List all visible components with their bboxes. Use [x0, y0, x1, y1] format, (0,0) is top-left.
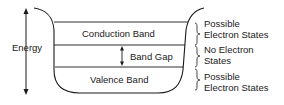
- side-label-line: Possible: [204, 19, 268, 30]
- band-gap-arrow-icon: [120, 46, 124, 66]
- brace-icon-conduction: [195, 23, 200, 45]
- energy-axis-label: Energy: [12, 43, 42, 53]
- side-label-gap: No Electron States: [204, 45, 254, 66]
- side-label-conduction: Possible Electron States: [204, 19, 268, 40]
- side-label-line: Possible: [204, 72, 268, 83]
- band-gap-label: Band Gap: [130, 52, 173, 62]
- brace-icon-gap: [195, 46, 200, 67]
- brace-icon-valence: [195, 69, 200, 90]
- side-label-valence: Possible Electron States: [204, 72, 268, 93]
- valence-band-label: Valence Band: [90, 75, 148, 85]
- band-gap-diagram: Energy Conduction Band Band Gap Valence …: [0, 0, 284, 105]
- side-label-line: No Electron: [204, 45, 254, 56]
- conduction-band-label: Conduction Band: [82, 29, 155, 39]
- side-label-line: Electron States: [204, 30, 268, 41]
- side-label-line: Electron States: [204, 83, 268, 94]
- side-label-line: States: [204, 56, 254, 67]
